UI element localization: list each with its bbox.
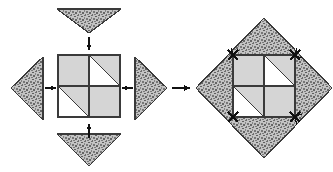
quadrant-top-left bbox=[58, 55, 89, 86]
inner-square bbox=[233, 55, 295, 117]
quadrant-top-right bbox=[89, 55, 120, 86]
quadrant-bottom-left bbox=[58, 86, 89, 117]
inner-square bbox=[58, 55, 120, 117]
quadrant-bottom-right bbox=[89, 86, 120, 117]
figure-root bbox=[0, 0, 333, 172]
assembly-diagram bbox=[0, 0, 333, 172]
